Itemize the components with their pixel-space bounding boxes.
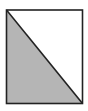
diagram <box>0 0 88 111</box>
